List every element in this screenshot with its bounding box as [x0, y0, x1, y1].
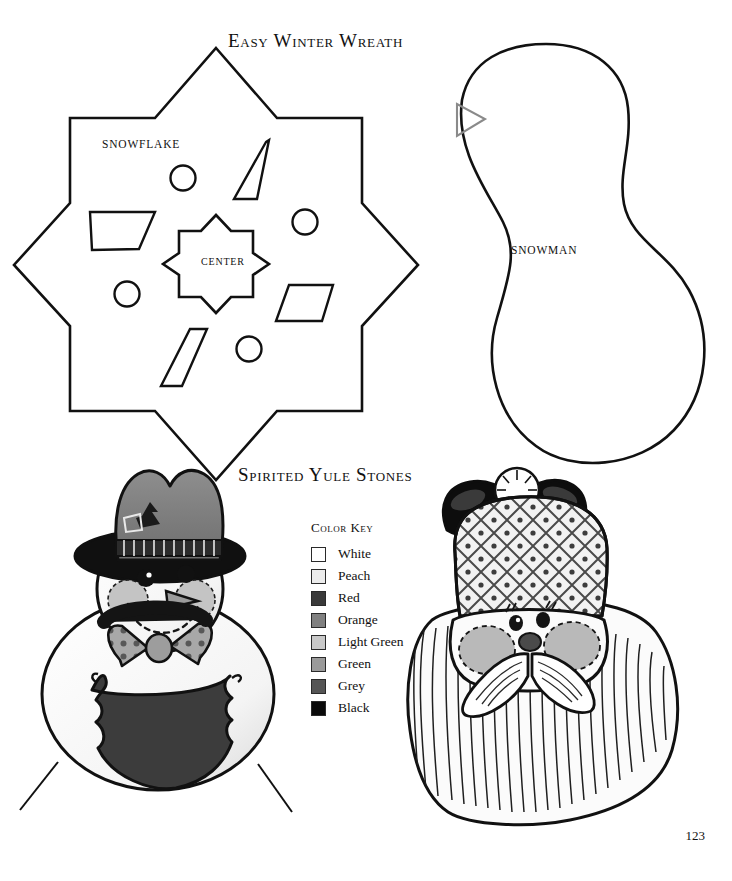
- santa-eye-right: [536, 612, 550, 628]
- color-label-peach: Peach: [338, 568, 370, 584]
- santa-beard: [408, 602, 678, 825]
- color-swatch-white: [311, 547, 326, 562]
- snowman-scarf-tail: [92, 674, 98, 682]
- santa-mustache-lines: [476, 662, 582, 706]
- color-label-light-green: Light Green: [338, 634, 404, 650]
- color-label-red: Red: [338, 590, 360, 606]
- snowman-peanut-outline: [461, 44, 704, 463]
- snowman-bow-tie: [104, 607, 212, 666]
- color-key-row-red: Red: [311, 587, 429, 609]
- snowman-twig-arm-right: [258, 764, 292, 812]
- santa-mustache-right: [532, 654, 594, 713]
- snowflake-circle-piece: [115, 282, 140, 307]
- color-swatch-green: [311, 657, 326, 672]
- snowflake-circle-piece: [293, 210, 318, 235]
- color-swatch-peach: [311, 569, 326, 584]
- snowman-cheek-right: [175, 580, 215, 620]
- color-key-row-peach: Peach: [311, 565, 429, 587]
- pattern-label-snowflake: SNOWFLAKE: [102, 138, 180, 150]
- page-title-spirited-yule-stones: Spirited Yule Stones: [238, 464, 412, 486]
- pattern-label-center: CENTER: [201, 256, 245, 267]
- color-label-orange: Orange: [338, 612, 378, 628]
- color-swatch-light-green: [311, 635, 326, 650]
- snowman-eye-left: [137, 569, 155, 587]
- snowman-eye-right: [177, 565, 195, 583]
- snowman-hat-snow-motif: [124, 514, 142, 532]
- snowman-hat-tree-motif: [136, 502, 160, 528]
- snowman-eye-highlight: [146, 572, 151, 577]
- snowman-head: [97, 526, 223, 652]
- santa-cheek-right: [544, 622, 600, 670]
- santa-hat-fur-highlight-right: [540, 482, 580, 511]
- pattern-page: Easy Winter Wreath Spirited Yule Stones …: [0, 0, 732, 881]
- santa-eye-highlight: [516, 618, 520, 622]
- color-key-row-black: Black: [311, 697, 429, 719]
- color-swatch-red: [311, 591, 326, 606]
- santa-face: [450, 610, 607, 692]
- snowflake-diamond-piece: [234, 140, 269, 199]
- color-label-white: White: [338, 546, 371, 562]
- snowflake-diamond-piece: [276, 285, 333, 321]
- santa-pompom-lines: [497, 470, 537, 510]
- color-swatch-black: [311, 701, 326, 716]
- color-key-title: Color Key: [311, 520, 429, 536]
- color-label-black: Black: [338, 700, 370, 716]
- snowman-twig-arm-left: [20, 762, 58, 810]
- color-swatch-orange: [311, 613, 326, 628]
- snowman-nose-placement-triangle: [457, 104, 485, 136]
- santa-beard-strands: [414, 622, 666, 812]
- santa-hat-fur-highlight-left: [448, 485, 488, 514]
- santa-stone-figure: [408, 468, 678, 825]
- santa-hat-body: [455, 497, 608, 616]
- santa-cheek-left: [459, 626, 515, 674]
- painted-stone-figures-art: [0, 0, 732, 881]
- snowman-hat-brim: [75, 530, 245, 582]
- pattern-label-snowman: SNOWMAN: [511, 244, 577, 256]
- snowman-body: [42, 598, 274, 790]
- color-key-row-green: Green: [311, 653, 429, 675]
- page-title-easy-winter-wreath: Easy Winter Wreath: [228, 30, 403, 52]
- page-number: 123: [686, 828, 706, 844]
- color-key-row-grey: Grey: [311, 675, 429, 697]
- snowman-hat-band: [116, 540, 222, 556]
- santa-mustache-left: [463, 654, 528, 717]
- color-label-grey: Grey: [338, 678, 365, 694]
- snowflake-diamond-piece: [90, 212, 155, 250]
- color-label-green: Green: [338, 656, 371, 672]
- santa-eye-left: [509, 615, 523, 631]
- snowflake-diamond-piece: [161, 329, 207, 386]
- snowman-stitched-smile: [128, 604, 198, 633]
- snowflake-circle-piece: [237, 337, 262, 362]
- snowman-cheek-left: [108, 580, 148, 620]
- snowman-hat-crown: [116, 470, 223, 560]
- santa-nose: [519, 633, 541, 651]
- snowman-hat-band-stitching: [124, 540, 214, 556]
- snowman-carrot-nose: [166, 591, 198, 608]
- color-key-legend: Color Key White Peach Red Orange Light G…: [311, 520, 429, 719]
- snowman-stone-figure: [20, 470, 292, 812]
- santa-hat-body-outline: [455, 497, 608, 616]
- color-swatch-grey: [311, 679, 326, 694]
- pattern-template-art: [0, 0, 732, 881]
- snowman-scarf: [92, 675, 232, 788]
- color-key-row-white: White: [311, 543, 429, 565]
- santa-eyebrows: [506, 601, 556, 612]
- santa-hat-pompom: [495, 468, 539, 512]
- santa-hat-fur-brim: [443, 480, 585, 541]
- snowman-scarf-tail-right: [232, 675, 241, 682]
- color-key-row-orange: Orange: [311, 609, 429, 631]
- snowflake-circle-piece: [171, 166, 196, 191]
- color-key-row-light-green: Light Green: [311, 631, 429, 653]
